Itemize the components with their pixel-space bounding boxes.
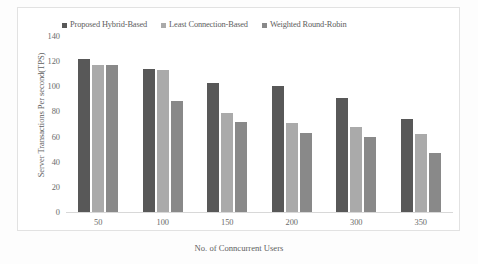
x-axis-tick-label: 350 (389, 218, 454, 227)
figure-container: Proposed Hybrid-BasedLeast Connection-Ba… (0, 0, 478, 264)
legend-label: Least Connection-Based (169, 21, 248, 29)
bar[interactable] (221, 113, 233, 212)
legend-item[interactable]: Least Connection-Based (161, 21, 248, 29)
bar[interactable] (106, 65, 118, 212)
y-axis-tick-label: 0 (56, 208, 60, 217)
bar[interactable] (364, 137, 376, 212)
legend-label: Weighted Round-Robin (270, 21, 347, 29)
y-axis-tick-label: 60 (52, 132, 60, 141)
legend-label: Proposed Hybrid-Based (70, 21, 147, 29)
y-axis-tick-label: 100 (47, 82, 60, 91)
x-axis-tick-label: 100 (131, 218, 196, 227)
bar[interactable] (143, 69, 155, 212)
bar[interactable] (286, 123, 298, 212)
bar[interactable] (207, 83, 219, 212)
legend-swatch-icon (62, 23, 67, 28)
bar-group: 300 (324, 36, 389, 212)
y-axis-tick-label: 140 (47, 32, 60, 41)
bar[interactable] (300, 133, 312, 212)
bar[interactable] (78, 59, 90, 212)
legend-swatch-icon (161, 23, 166, 28)
legend-item[interactable]: Weighted Round-Robin (262, 21, 347, 29)
y-axis-tick-label: 80 (52, 107, 60, 116)
bar[interactable] (157, 70, 169, 212)
bar[interactable] (429, 153, 441, 212)
bar[interactable] (92, 65, 104, 212)
bar-group: 200 (260, 36, 325, 212)
bar[interactable] (171, 101, 183, 212)
y-axis-tick-label: 40 (52, 157, 60, 166)
bar[interactable] (272, 86, 284, 212)
y-axis-tick-label: 120 (47, 57, 60, 66)
x-axis-tick-label: 300 (324, 218, 389, 227)
bar[interactable] (350, 127, 362, 212)
plot-area: 020406080100120140 50100150200300350 (66, 36, 453, 212)
bar-group: 50 (66, 36, 131, 212)
x-axis-tick-label: 200 (260, 218, 325, 227)
x-axis-tick-label: 50 (66, 218, 131, 227)
bar[interactable] (235, 122, 247, 213)
legend-swatch-icon (262, 23, 267, 28)
y-axis-tick-label: 20 (52, 182, 60, 191)
bar[interactable] (336, 98, 348, 212)
x-axis-tick-label: 150 (195, 218, 260, 227)
bar-group: 150 (195, 36, 260, 212)
legend-item[interactable]: Proposed Hybrid-Based (62, 21, 147, 29)
chart-legend: Proposed Hybrid-BasedLeast Connection-Ba… (62, 18, 432, 32)
bar[interactable] (401, 119, 413, 212)
bar-group: 350 (389, 36, 454, 212)
bar-groups: 50100150200300350 (66, 36, 453, 212)
bar[interactable] (415, 134, 427, 212)
bar-group: 100 (131, 36, 196, 212)
x-axis-line (66, 212, 453, 213)
y-axis-title: Server Transactions Per second(TPS) (36, 28, 46, 203)
x-axis-title: No. of Conncurrent Users (0, 243, 478, 253)
